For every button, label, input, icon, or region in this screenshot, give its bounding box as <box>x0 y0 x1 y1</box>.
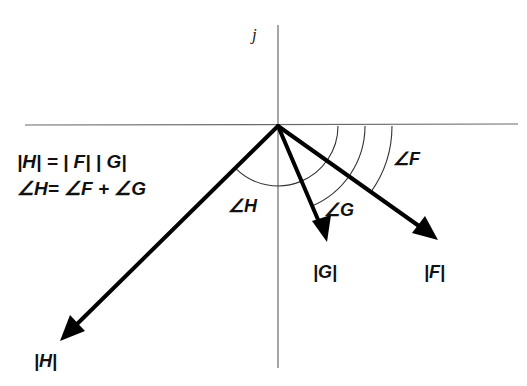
phasor-diagram: j ∠H ∠G ∠F |G| |F| |H| |H| = | F| | G| ∠… <box>0 0 527 386</box>
angle-f-label: ∠F <box>393 149 421 169</box>
imaginary-axis-label: j <box>250 25 257 44</box>
magnitude-f-label: |F| <box>424 262 445 282</box>
angle-equation: ∠H= ∠F + ∠G <box>17 178 146 199</box>
magnitude-equation: |H| = | F| | G| <box>17 151 127 172</box>
angle-g-label: ∠G <box>324 200 354 220</box>
angle-f-arc <box>371 126 392 192</box>
magnitude-g-label: |G| <box>313 262 337 282</box>
angle-h-label: ∠H <box>228 196 258 216</box>
angle-g-arc <box>312 126 365 206</box>
magnitude-h-label: |H| <box>34 351 57 371</box>
real-axis <box>25 124 518 125</box>
arrowhead-f-icon <box>412 216 438 240</box>
